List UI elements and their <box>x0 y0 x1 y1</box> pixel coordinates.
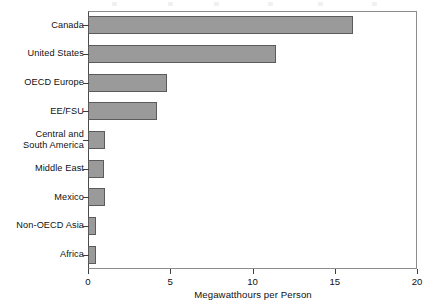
bar <box>88 45 276 63</box>
bar <box>88 131 105 149</box>
y-axis-category-label: Mexico <box>0 192 84 203</box>
y-axis-tick <box>83 226 89 227</box>
y-axis-tick <box>83 111 89 112</box>
x-axis-title: Megawatthours per Person <box>88 289 418 300</box>
bar-chart: CanadaUnited StatesOECD EuropeEE/FSUCent… <box>0 0 437 305</box>
y-axis-tick <box>83 25 89 26</box>
y-axis-category-label: Middle East <box>0 163 84 174</box>
y-axis-tick <box>83 255 89 256</box>
x-axis-tick <box>417 269 418 274</box>
x-axis-tick-label: 0 <box>71 276 105 287</box>
x-axis-tick <box>88 269 89 274</box>
bar <box>88 246 96 264</box>
x-axis-tick-label: 5 <box>153 276 187 287</box>
y-axis-tick <box>83 169 89 170</box>
y-axis-category-label: United States <box>0 48 84 59</box>
bars-layer <box>88 11 418 269</box>
bar <box>88 102 157 120</box>
y-axis-category-label: EE/FSU <box>0 106 84 117</box>
bar <box>88 160 104 178</box>
bar <box>88 217 96 235</box>
y-axis-category-label: OECD Europe <box>0 77 84 88</box>
y-axis-category-label: Central and South America <box>0 129 84 150</box>
bar <box>88 74 167 92</box>
y-axis-tick <box>83 197 89 198</box>
y-axis-category-labels: CanadaUnited StatesOECD EuropeEE/FSUCent… <box>0 0 84 305</box>
x-axis-tick-label: 20 <box>400 276 434 287</box>
x-axis-tick-label: 10 <box>236 276 270 287</box>
y-axis-tick <box>83 83 89 84</box>
bar <box>88 188 105 206</box>
x-axis-tick-label: 15 <box>318 276 352 287</box>
y-axis-tick <box>83 140 89 141</box>
y-axis-tick <box>83 54 89 55</box>
x-axis-tick <box>253 269 254 274</box>
y-axis-category-label: Canada <box>0 20 84 31</box>
y-axis-category-label: Africa <box>0 249 84 260</box>
x-axis-tick <box>335 269 336 274</box>
bar <box>88 16 353 34</box>
y-axis-category-label: Non-OECD Asia <box>0 220 84 231</box>
x-axis-tick <box>170 269 171 274</box>
